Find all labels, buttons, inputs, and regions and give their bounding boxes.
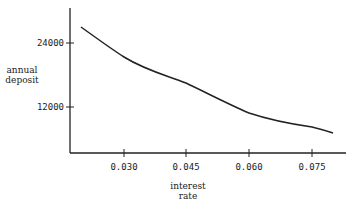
y-tick-label: 24000 — [37, 38, 64, 48]
y-tick-label: 12000 — [37, 102, 64, 112]
x-tick-label: 0.060 — [235, 162, 262, 172]
chart: 24000 12000 0.030 0.045 0.060 0.075 annu… — [0, 0, 358, 213]
x-axis-label: rate — [179, 191, 198, 201]
x-tick-label: 0.075 — [298, 162, 325, 172]
y-axis-label: deposit — [5, 75, 39, 85]
x-tick-label: 0.045 — [172, 162, 199, 172]
x-tick-label: 0.030 — [110, 162, 137, 172]
x-axis-label: interest — [170, 181, 206, 191]
data-line — [81, 27, 333, 133]
y-axis-label: annual — [7, 65, 38, 75]
